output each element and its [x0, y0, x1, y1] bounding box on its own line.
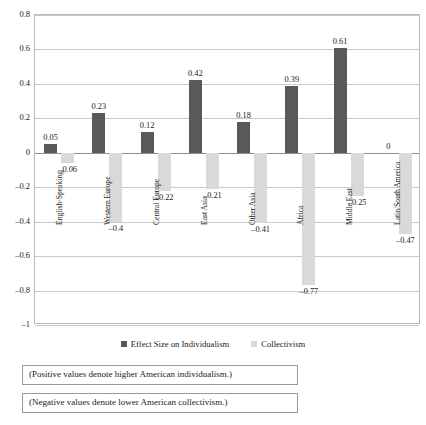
bar-individualism: [189, 80, 202, 152]
data-label-collectivism: –0.77: [293, 287, 325, 296]
y-tick-1: 0.6: [0, 44, 30, 53]
bar-group: 0.61–0.25Middle East: [325, 15, 373, 323]
category-label: Middle East: [346, 188, 354, 225]
caption-positive: (Positive values denote higher American …: [22, 365, 298, 385]
category-label: English-Speaking: [56, 171, 64, 225]
data-label-individualism: 0.61: [324, 37, 356, 46]
category-label: Western Europe: [104, 176, 112, 225]
legend-swatch-icon: [121, 341, 127, 347]
data-label-individualism: 0.23: [83, 102, 115, 111]
bar-individualism: [285, 86, 298, 153]
legend-item-individualism[interactable]: Effect Size on Individualism: [121, 339, 229, 349]
chart-legend: Effect Size on IndividualismCollectivism: [0, 339, 426, 349]
plot-area: 0.05–0.06English-Speaking0.23–0.4Western…: [34, 14, 420, 324]
category-label: Latin/South America: [394, 161, 402, 224]
legend-swatch-icon: [251, 341, 257, 347]
bar-chart-figure: 0.80.60.40.20–0.2–0.4–0.6–0.8–1 0.05–0.0…: [0, 0, 426, 425]
y-tick-9: –1: [0, 320, 30, 329]
category-label: Central Europe: [153, 179, 161, 225]
bar-group: 0.12–0.22Central Europe: [132, 15, 180, 323]
category-label: Other Asia: [249, 192, 257, 225]
bar-collectivism: [206, 153, 219, 189]
caption-negative: (Negative values denote lower American c…: [22, 393, 298, 413]
data-label-individualism: 0.39: [276, 75, 308, 84]
bar-group: 0.18–0.41Other Asia: [228, 15, 276, 323]
y-tick-6: –0.4: [0, 217, 30, 226]
bar-individualism: [92, 113, 105, 153]
y-tick-2: 0.4: [0, 79, 30, 88]
bar-individualism: [44, 144, 57, 153]
bar-group: 0.05–0.06English-Speaking: [35, 15, 83, 323]
bar-individualism: [334, 48, 347, 153]
bar-group: 0.42–0.21East Asia: [180, 15, 228, 323]
y-tick-5: –0.2: [0, 182, 30, 191]
category-label: East Asia: [201, 196, 209, 224]
data-label-individualism: 0.05: [35, 133, 67, 142]
y-axis-tick-labels: 0.80.60.40.20–0.2–0.4–0.6–0.8–1: [0, 14, 32, 324]
data-label-collectivism: –0.4: [100, 224, 132, 233]
bar-group: 0.23–0.4Western Europe: [83, 15, 131, 323]
data-label-collectivism: –0.47: [389, 236, 421, 245]
bar-series-container: 0.05–0.06English-Speaking0.23–0.4Western…: [35, 15, 419, 323]
category-label: Africa: [297, 205, 305, 224]
bar-group: 0.39–0.77Africa: [276, 15, 324, 323]
y-tick-7: –0.6: [0, 251, 30, 260]
legend-label: Effect Size on Individualism: [131, 339, 229, 349]
bar-collectivism: [61, 153, 74, 163]
bar-individualism: [237, 122, 250, 153]
data-label-collectivism: –0.41: [245, 225, 277, 234]
bar-group: 0–0.47Latin/South America: [373, 15, 421, 323]
y-tick-0: 0.8: [0, 10, 30, 19]
y-tick-8: –0.8: [0, 286, 30, 295]
bar-individualism: [141, 132, 154, 153]
legend-item-collectivism[interactable]: Collectivism: [251, 339, 305, 349]
y-tick-3: 0.2: [0, 113, 30, 122]
data-label-individualism: 0.12: [131, 121, 163, 130]
data-label-individualism: 0.42: [179, 69, 211, 78]
data-label-individualism: 0: [372, 142, 404, 151]
data-label-individualism: 0.18: [228, 111, 260, 120]
legend-label: Collectivism: [261, 339, 305, 349]
gridline: [35, 325, 419, 326]
y-tick-4: 0: [0, 148, 30, 157]
